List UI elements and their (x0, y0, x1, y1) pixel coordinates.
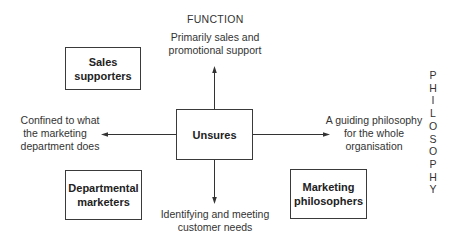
left-label-line3: department does (15, 140, 105, 153)
up-arrow-label: Primarily sales and promotional support (150, 31, 280, 57)
philosophy-letter: Y (429, 183, 436, 196)
down-label-line1: Identifying and meeting (150, 208, 280, 221)
philosophy-letter: S (429, 133, 436, 146)
departmental-marketers-line1: Departmental (68, 181, 138, 195)
arrow-down-head (212, 197, 217, 204)
philosophy-letter: I (432, 94, 435, 107)
down-label-line2: customer needs (150, 221, 280, 234)
arrow-up-head (212, 66, 217, 73)
down-arrow-label: Identifying and meeting customer needs (150, 208, 280, 234)
right-arrow-label: A guiding philosophy for the whole organ… (324, 114, 424, 153)
philosophy-letter: L (430, 107, 436, 120)
left-label-line1: Confined to what (15, 114, 105, 127)
philosophy-axis-title: P H I L O S O P H Y (427, 69, 439, 196)
philosophy-letter: H (429, 82, 437, 95)
function-axis-title: FUNCTION (187, 13, 244, 25)
right-label-line2: for the whole (324, 127, 424, 140)
unsures-label: Unsures (192, 128, 236, 142)
left-arrow-label: Confined to what the marketing departmen… (15, 114, 105, 153)
right-label-line3: organisation (324, 140, 424, 153)
philosophy-letter: P (429, 69, 436, 82)
marketing-philosophers-line1: Marketing (294, 180, 363, 194)
departmental-marketers-box: Departmental marketers (65, 170, 142, 220)
marketing-philosophers-box: Marketing philosophers (290, 169, 367, 219)
sales-supporters-line2: supporters (74, 69, 131, 83)
philosophy-letter: P (429, 158, 436, 171)
departmental-marketers-line2: marketers (68, 195, 138, 209)
sales-supporters-box: Sales supporters (65, 47, 141, 90)
left-label-line2: the marketing (15, 127, 105, 140)
philosophy-letter: H (429, 171, 437, 184)
up-label-line2: promotional support (150, 44, 280, 57)
unsures-box: Unsures (176, 109, 253, 160)
up-label-line1: Primarily sales and (150, 31, 280, 44)
philosophy-letter: O (429, 145, 437, 158)
philosophy-letter: O (429, 120, 437, 133)
right-label-line1: A guiding philosophy (324, 114, 424, 127)
marketing-philosophers-line2: philosophers (294, 194, 363, 208)
sales-supporters-line1: Sales (74, 55, 131, 69)
